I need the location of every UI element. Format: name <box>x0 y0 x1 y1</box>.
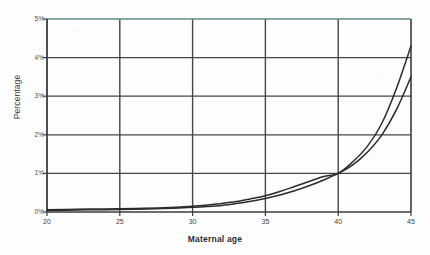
x-tick-label: 45 <box>391 218 430 225</box>
x-tick-label: 20 <box>27 218 67 225</box>
x-tick-label: 25 <box>100 218 140 225</box>
x-tick-label: 35 <box>245 218 285 225</box>
x-axis-title: Maternal age <box>0 234 430 244</box>
x-axis-tick-labels: 202530354045 <box>0 0 430 255</box>
chart-figure: 0%1%2%3%4%5% 202530354045 Percentage Mat… <box>0 0 430 255</box>
y-axis-title: Percentage <box>12 52 22 142</box>
x-tick-label: 30 <box>173 218 213 225</box>
x-tick-label: 40 <box>318 218 358 225</box>
